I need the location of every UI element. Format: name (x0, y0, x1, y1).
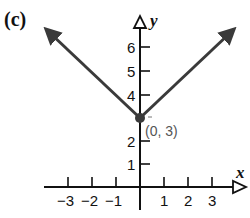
x-tick-2: 2 (184, 192, 192, 209)
vertex-label: (0, 3) (145, 123, 178, 139)
y-tick-6: 6 (127, 39, 135, 56)
y-axis-arrow-icon (134, 16, 146, 28)
x-tick-neg1: −1 (105, 192, 122, 209)
panel-label: (c) (4, 8, 26, 31)
x-tick-1: 1 (160, 192, 168, 209)
x-axis: x −3 −2 −1 1 2 3 (44, 163, 246, 209)
graph-figure: (c) y 6 5 4 2 1 x −3 −2 −1 1 2 3 (0, 0, 250, 218)
y-axis-label: y (148, 11, 158, 30)
x-tick-3: 3 (208, 192, 216, 209)
y-tick-2: 2 (127, 133, 135, 150)
right-ray (140, 33, 230, 118)
x-tick-neg2: −2 (81, 192, 98, 209)
x-axis-arrow-icon (233, 181, 246, 193)
y-tick-4: 4 (127, 87, 135, 104)
vertex-point-icon (135, 113, 145, 123)
y-tick-5: 5 (127, 63, 135, 80)
x-axis-label: x (235, 163, 245, 182)
x-tick-neg3: −3 (57, 192, 74, 209)
y-tick-1: 1 (127, 156, 135, 173)
